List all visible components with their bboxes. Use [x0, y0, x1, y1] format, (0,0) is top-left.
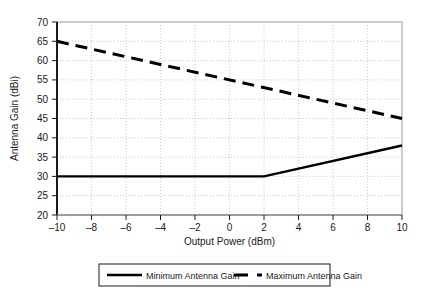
x-tick-label: –4	[155, 222, 167, 233]
y-tick-label: 35	[37, 152, 49, 163]
x-tick-label: 6	[330, 222, 336, 233]
y-tick-label: 70	[37, 17, 49, 28]
chart-legend: Minimum Antenna Gain Maximum Antenna Gai…	[99, 264, 362, 286]
y-tick-label: 55	[37, 74, 49, 85]
x-tick-label: 0	[227, 222, 233, 233]
y-tick-label: 50	[37, 94, 49, 105]
x-tick-label: –10	[49, 222, 66, 233]
y-axis-title: Antenna Gain (dBi)	[9, 76, 20, 161]
antenna-gain-line-chart: 70 65 60 55 50 45 40 35 30 25 20	[0, 0, 428, 297]
x-tick-label: 10	[396, 222, 408, 233]
x-tick-label: 8	[365, 222, 371, 233]
x-tick-label: 4	[296, 222, 302, 233]
chart-figure: 70 65 60 55 50 45 40 35 30 25 20	[0, 0, 428, 297]
x-tick-label: 2	[261, 222, 267, 233]
x-tick-label: –2	[189, 222, 201, 233]
x-tick-label: –8	[86, 222, 98, 233]
y-tick-label: 25	[37, 190, 49, 201]
y-tick-label: 60	[37, 55, 49, 66]
y-tick-label: 65	[37, 36, 49, 47]
x-tick-label: –6	[120, 222, 132, 233]
legend-label-maximum: Maximum Antenna Gain	[266, 271, 362, 281]
y-tick-label: 40	[37, 132, 49, 143]
y-tick-label: 45	[37, 113, 49, 124]
y-tick-label: 30	[37, 171, 49, 182]
legend-label-minimum: Minimum Antenna Gain	[146, 271, 240, 281]
y-tick-label: 20	[37, 210, 49, 221]
x-axis-title: Output Power (dBm)	[184, 236, 275, 247]
